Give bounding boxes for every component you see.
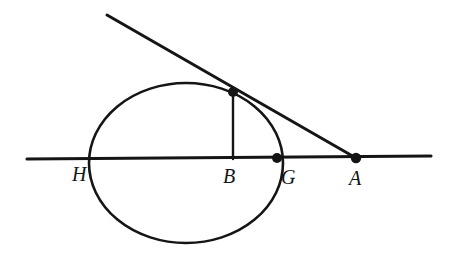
geometry-canvas: H B G A	[0, 0, 451, 261]
tangent-line	[107, 15, 356, 158]
point-label-a: A	[347, 167, 362, 189]
point-label-h: H	[71, 163, 88, 185]
tangency-point-dot	[228, 87, 238, 97]
geometry-figure: H B G A	[0, 0, 451, 261]
point-label-g: G	[281, 166, 296, 188]
secant-line	[27, 156, 431, 159]
point-label-b: B	[223, 165, 235, 187]
main-circle	[89, 83, 283, 243]
point-a-dot	[351, 153, 361, 163]
point-g-dot	[272, 153, 282, 163]
